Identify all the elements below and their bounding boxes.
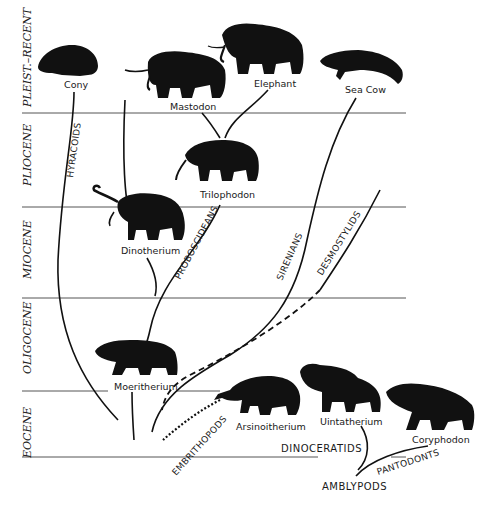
era-label: PLEIST.–RECENT: [21, 6, 34, 108]
cony-silhouette-icon: [38, 45, 98, 76]
animal-label-sea-cow: Sea Cow: [345, 84, 386, 95]
group-label-embrithopods: EMBRITHOPODS: [170, 414, 229, 478]
era-label: OLIGOCENE: [21, 301, 34, 374]
desmostylids-branch: [320, 190, 380, 290]
animal-label-arsinoitherium: Arsinoitherium: [236, 421, 306, 432]
mastodon-trilophodon-branch: [202, 113, 220, 138]
era-label: MIOCENE: [21, 220, 34, 280]
group-label-desmostylids: DESMOSTYLIDS: [315, 209, 363, 277]
coryphodon-silhouette-icon: [386, 383, 474, 430]
group-label-hyracoids: HYRACOIDS: [65, 122, 83, 178]
group-label-pantodonts: PANTODONTS: [376, 447, 441, 477]
era-label: PLIOCENE: [21, 124, 34, 187]
group-label-sirenians: SIRENIANS: [275, 231, 305, 282]
animal-label-cony: Cony: [64, 79, 88, 90]
elephant-trilophodon-branch: [225, 90, 268, 138]
arsinoitherium-silhouette-icon: [214, 376, 300, 415]
animal-label-trilophodon: Trilophodon: [199, 189, 255, 200]
mastodon-silhouette-icon: [125, 51, 226, 98]
moeritherium-silhouette-icon: [95, 340, 178, 375]
uintatherium-silhouette-icon: [300, 364, 381, 412]
group-label-amblypods: AMBLYPODS: [322, 481, 387, 492]
dinotherium-branch: [147, 258, 156, 296]
animal-label-elephant: Elephant: [254, 78, 296, 89]
group-label-dinoceratids: DINOCERATIDS: [281, 443, 362, 454]
trilophodon-silhouette-icon: [176, 140, 259, 181]
evolution-tree-diagram: PLEIST.–RECENT PLIOCENE MIOCENE OLIGOCEN…: [0, 0, 492, 507]
dinotherium-silhouette-icon: [94, 186, 185, 240]
sea-cow-silhouette-icon: [320, 50, 403, 84]
animal-label-coryphodon: Coryphodon: [412, 434, 470, 445]
moeritherium-branch: [132, 392, 134, 440]
hyracoids-branch: [58, 92, 118, 420]
era-label: EOCENE: [21, 407, 34, 459]
animal-label-dinotherium: Dinotherium: [121, 245, 180, 256]
animal-label-uintatherium: Uintatherium: [320, 416, 383, 427]
animal-label-moeritherium: Moeritherium: [114, 381, 178, 392]
animal-label-mastodon: Mastodon: [170, 101, 216, 112]
